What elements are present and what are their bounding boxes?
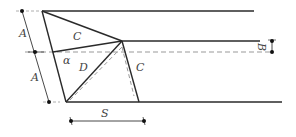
- dashed-inner-right: [122, 47, 134, 96]
- label-a-lower: A: [30, 71, 39, 84]
- alpha-edge: [53, 41, 122, 52]
- b-dimension-dot-bottom: [270, 50, 274, 54]
- d-diagonal: [66, 41, 122, 102]
- a-dimension-dot-top: [20, 9, 24, 13]
- label-alpha: α: [63, 54, 71, 67]
- label-c-right: C: [136, 61, 145, 74]
- dashed-inner-diagonal: [70, 47, 122, 100]
- label-s: S: [101, 107, 109, 120]
- a-dimension-dot-bottom: [47, 100, 51, 104]
- label-a-upper: A: [18, 27, 27, 40]
- b-dimension-dot-top: [270, 39, 274, 43]
- top-c-edge: [42, 11, 122, 41]
- s-dimension-dot-right: [142, 119, 146, 123]
- geometry-diagram: A A C α D C S B: [0, 0, 296, 137]
- a-dimension-dot-mid: [33, 50, 37, 54]
- label-c-upper: C: [73, 30, 82, 43]
- label-d: D: [78, 61, 88, 74]
- s-dimension-dot-left: [69, 119, 73, 123]
- label-b: B: [255, 42, 268, 51]
